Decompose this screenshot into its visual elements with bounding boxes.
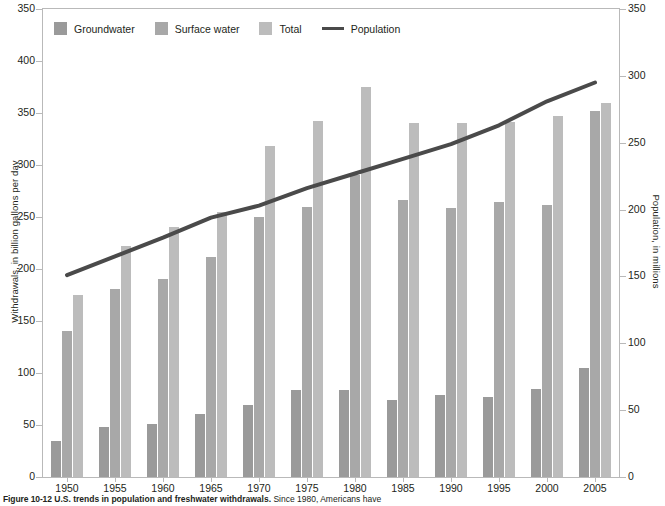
x-axis-tick-label: 1965 (188, 482, 234, 494)
y-axis-right-tick-label: 250 (628, 136, 665, 148)
y-axis-left-tick-label: 50 (0, 418, 35, 430)
figure-caption: Figure 10-12 U.S. trends in population a… (3, 494, 663, 505)
y-axis-left-tick-label: 250 (0, 210, 35, 222)
y-axis-left-tick-mark (36, 269, 42, 270)
y-axis-left-tick-mark (36, 9, 42, 10)
population-line-series (43, 9, 619, 477)
y-axis-right-tick-mark (620, 477, 626, 478)
y-axis-left-tick-mark (36, 321, 42, 322)
y-axis-right-tick-label: 350 (628, 2, 665, 14)
y-axis-left-tick-mark (36, 477, 42, 478)
legend-color-swatch (259, 22, 272, 35)
x-axis-tick-label: 2005 (572, 482, 618, 494)
figure-title: U.S. trends in population and freshwater… (54, 494, 271, 504)
y-axis-right-tick-label: 300 (628, 69, 665, 81)
x-axis-tick-label: 1980 (332, 482, 378, 494)
y-axis-right-tick-label: 50 (628, 403, 665, 415)
x-axis-tick-label: 1950 (44, 482, 90, 494)
y-axis-right-tick-mark (620, 143, 626, 144)
figure-body-text: Since 1980, Americans have (273, 494, 381, 504)
y-axis-right-tick-label: 0 (628, 470, 665, 482)
x-axis-tick-label: 2000 (524, 482, 570, 494)
y-axis-left-tick-label: 200 (0, 262, 35, 274)
y-axis-left-tick-mark (36, 217, 42, 218)
y-axis-right-tick-label: 150 (628, 269, 665, 281)
y-axis-right-tick-mark (620, 76, 626, 77)
y-axis-right-tick-mark (620, 9, 626, 10)
legend-item: Surface water (155, 22, 260, 35)
population-line-path (67, 83, 595, 276)
legend-label: Total (279, 23, 301, 35)
legend-color-swatch (54, 22, 67, 35)
y-axis-right-title: Population, in millions (651, 142, 662, 342)
y-axis-right-tick-mark (620, 276, 626, 277)
legend-line-swatch (322, 27, 344, 31)
y-axis-left-tick-label: 0 (0, 470, 35, 482)
x-axis-tick-label: 1975 (284, 482, 330, 494)
legend-item: Population (322, 23, 421, 35)
y-axis-left-tick-label: 400 (0, 54, 35, 66)
y-axis-right-tick-mark (620, 343, 626, 344)
figure-number: Figure 10-12 (3, 494, 52, 504)
y-axis-left-tick-mark (36, 113, 42, 114)
legend-label: Surface water (175, 23, 240, 35)
y-axis-left-tick-label: 100 (0, 366, 35, 378)
y-axis-left-tick-label: 350 (0, 106, 35, 118)
x-axis-tick-label: 1990 (428, 482, 474, 494)
figure-container: Withdrawals, in billion gallons per day … (0, 0, 665, 506)
y-axis-left-title: Withdrawals, in billion gallons per day (9, 142, 20, 342)
chart-legend: GroundwaterSurface waterTotalPopulation (54, 22, 420, 35)
y-axis-left-tick-label: 300 (0, 158, 35, 170)
x-axis-tick-label: 1960 (140, 482, 186, 494)
legend-label: Groundwater (74, 23, 135, 35)
x-axis-tick-label: 1970 (236, 482, 282, 494)
y-axis-left-tick-mark (36, 61, 42, 62)
y-axis-right-tick-label: 200 (628, 203, 665, 215)
legend-item: Groundwater (54, 22, 155, 35)
x-axis-tick-label: 1955 (92, 482, 138, 494)
y-axis-left-tick-mark (36, 425, 42, 426)
y-axis-left-tick-mark (36, 165, 42, 166)
legend-color-swatch (155, 22, 168, 35)
y-axis-left-tick-label: 150 (0, 314, 35, 326)
y-axis-right-tick-label: 100 (628, 336, 665, 348)
x-axis-tick-label: 1995 (476, 482, 522, 494)
y-axis-right-tick-mark (620, 210, 626, 211)
legend-label: Population (351, 23, 401, 35)
legend-item: Total (259, 22, 321, 35)
plot-surface (43, 9, 619, 477)
y-axis-right-tick-mark (620, 410, 626, 411)
y-axis-left-tick-mark (36, 373, 42, 374)
y-axis-left-tick-label: 350 (0, 2, 35, 14)
x-axis-tick-label: 1985 (380, 482, 426, 494)
